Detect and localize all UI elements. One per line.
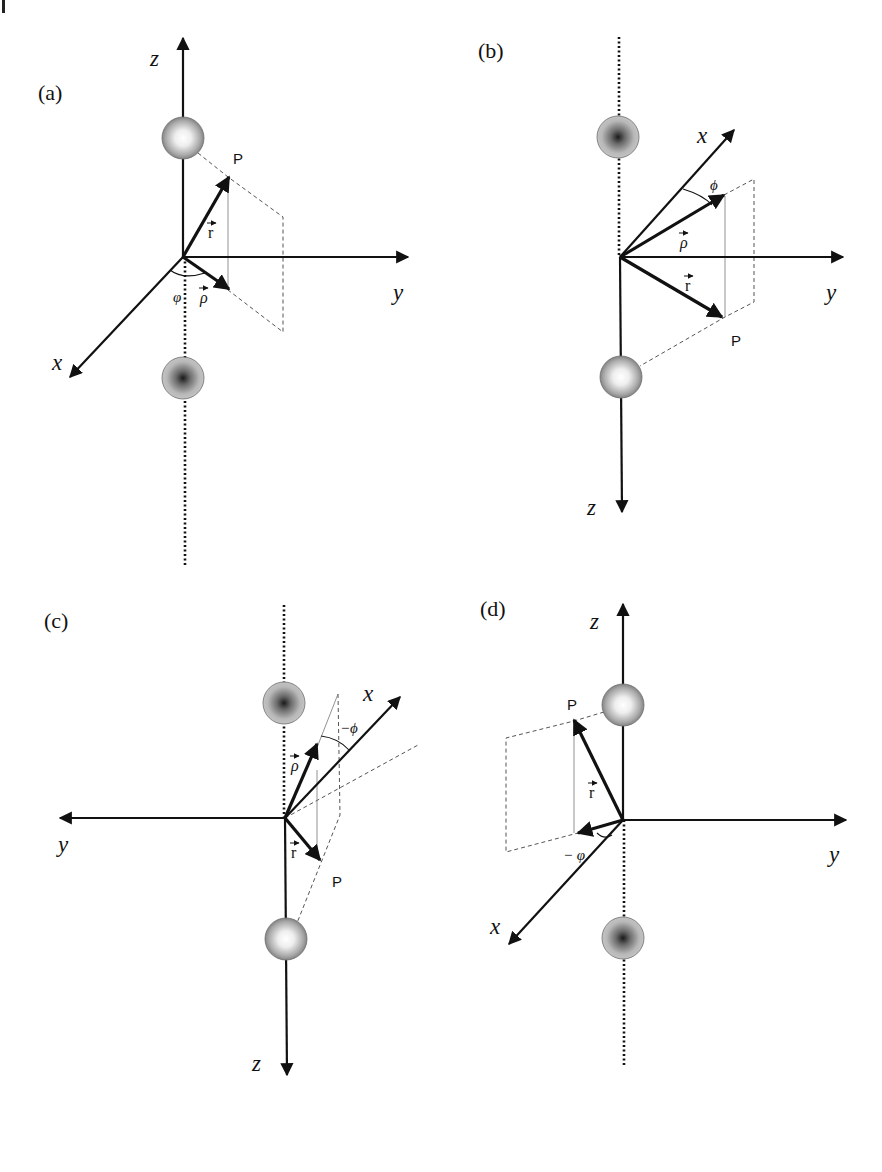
vector-rho-arrow xyxy=(183,257,229,289)
y-axis-label: y xyxy=(824,280,837,305)
point-p-label: P xyxy=(233,150,243,167)
point-p-label: P xyxy=(567,696,577,713)
light-sphere-icon xyxy=(600,356,642,398)
diagram-canvas: zyxrρPφ(a)zyxρrPϕ(b)zyxρrP−ϕ(c)zyxrP− φ(… xyxy=(0,0,882,1172)
vector-r-label: r xyxy=(589,784,595,801)
dashed-projection-line xyxy=(198,153,283,332)
z-axis-label: z xyxy=(586,495,596,520)
panel-a: zyxrρPφ(a) xyxy=(38,38,408,566)
vector-rho-label: ρ xyxy=(290,757,299,775)
dark-sphere-icon xyxy=(597,116,639,158)
dashed-projection-line xyxy=(285,745,418,818)
vector-rho-arrow xyxy=(285,744,317,818)
x-axis-label: x xyxy=(696,123,708,148)
panel-label-d: (d) xyxy=(480,596,506,621)
vector-rho-label: ρ xyxy=(199,289,208,307)
vector-r-arrow xyxy=(574,720,623,820)
x-axis-label: x xyxy=(489,914,501,939)
x-axis-arrow xyxy=(620,130,734,257)
y-axis-label: y xyxy=(391,280,404,305)
panel-label-a: (a) xyxy=(38,80,62,105)
panel-b: zyxρrPϕ(b) xyxy=(478,37,843,520)
vector-r-label: r xyxy=(208,224,214,241)
angle-arc xyxy=(321,736,349,750)
page-edge-mark xyxy=(2,0,5,13)
light-sphere-icon xyxy=(602,684,644,726)
vector-rho-arrow xyxy=(620,195,724,257)
angle-arc xyxy=(170,270,205,276)
vector-r-arrow xyxy=(183,177,229,257)
z-axis-label: z xyxy=(149,46,159,71)
z-axis-label: z xyxy=(251,1051,261,1076)
light-sphere-icon xyxy=(265,918,307,960)
x-axis-label: x xyxy=(362,681,374,706)
z-axis-label: z xyxy=(589,609,599,634)
dark-sphere-icon xyxy=(162,357,204,399)
angle-phi-label: ϕ xyxy=(710,177,718,193)
x-axis-arrow xyxy=(285,697,400,818)
panel-d: zyxrP− φ(d) xyxy=(480,596,846,1067)
angle-phi-label: φ xyxy=(173,289,181,305)
angle-phi-label: − φ xyxy=(563,847,585,863)
y-axis-label: y xyxy=(56,832,69,857)
dark-sphere-icon xyxy=(263,682,305,724)
panel-label-b: (b) xyxy=(478,38,504,63)
x-axis-label: x xyxy=(51,350,63,375)
point-p-label: P xyxy=(731,332,741,349)
x-axis-arrow xyxy=(70,257,183,377)
light-sphere-icon xyxy=(162,117,204,159)
panel-label-c: (c) xyxy=(44,608,68,633)
vector-rho-label: ρ xyxy=(679,234,688,252)
y-axis-label: y xyxy=(827,842,840,867)
angle-arc xyxy=(683,189,712,205)
point-p-label: P xyxy=(332,873,342,890)
vector-r-label: r xyxy=(291,844,297,861)
dark-sphere-icon xyxy=(602,917,644,959)
vector-r-label: r xyxy=(685,277,691,294)
panel-c: zyxρrP−ϕ(c) xyxy=(44,605,418,1076)
vector-r-arrow xyxy=(620,257,722,317)
figure-coordinate-systems: zyxrρPφ(a)zyxρrPϕ(b)zyxρrP−ϕ(c)zyxrP− φ(… xyxy=(0,0,882,1172)
angle-phi-label: −ϕ xyxy=(340,720,358,736)
